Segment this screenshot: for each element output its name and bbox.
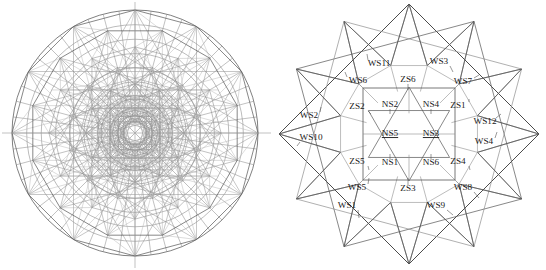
- star-ray-a-10: [296, 69, 340, 116]
- axis-group: [2, 2, 271, 268]
- shell-link-0-11: [74, 26, 108, 30]
- label-ws3: WS3: [430, 56, 449, 66]
- label-zs6: ZS6: [400, 74, 416, 84]
- shell-link-0-2: [237, 72, 241, 106]
- label-ns3: NS3: [423, 128, 440, 138]
- label-ws5-leader: [368, 178, 369, 184]
- label-ns2: NS2: [382, 99, 399, 109]
- shell-link-0-1: [197, 26, 210, 58]
- label-zs1: ZS1: [450, 100, 466, 110]
- shell-link-3-6: [117, 182, 135, 198]
- label-ws10-leader: [297, 142, 300, 146]
- label-ws3-leader: [450, 66, 453, 72]
- left-figure-panel: [0, 0, 273, 270]
- label-zs3: ZS3: [400, 183, 416, 193]
- label-ws12-leader: [496, 114, 501, 118]
- label-zs5-leader: [368, 166, 369, 170]
- label-zs4: ZS4: [450, 156, 466, 166]
- label-ns6: NS6: [423, 157, 440, 167]
- label-zs2: ZS2: [349, 101, 365, 111]
- label-ws6-leader: [345, 72, 347, 77]
- figure-pair: WS1WS2WS3WS4WS5WS6WS7WS8WS9WS10WS11WS12Z…: [0, 0, 546, 270]
- polar-mesh-disk: [0, 0, 273, 270]
- label-ws9-leader: [447, 210, 453, 215]
- label-zs5: ZS5: [349, 156, 365, 166]
- label-ws11: WS11: [368, 58, 391, 68]
- star-ray-a-4: [477, 152, 521, 199]
- label-ws5: WS5: [348, 182, 367, 192]
- twelve-point-star-diagram: WS1WS2WS3WS4WS5WS6WS7WS8WS9WS10WS11WS12Z…: [273, 0, 546, 270]
- labels-group: WS1WS2WS3WS4WS5WS6WS7WS8WS9WS10WS11WS12Z…: [300, 56, 497, 210]
- label-ns4: NS4: [423, 99, 440, 109]
- star-ray-b-8: [296, 152, 340, 199]
- label-ws1: WS1: [338, 200, 357, 210]
- shell-link-3-0: [135, 68, 153, 84]
- label-ws9: WS9: [427, 200, 446, 210]
- star-ray-b-2: [477, 69, 521, 116]
- shell-link-0-8: [28, 160, 32, 194]
- label-ws4-leader: [495, 132, 497, 138]
- label-ws10: WS10: [300, 132, 323, 142]
- label-ws2: WS2: [300, 110, 319, 120]
- label-ws6: WS6: [349, 75, 368, 85]
- shell-link-0-10: [28, 58, 60, 71]
- label-ws7: WS7: [454, 76, 473, 86]
- shell-link-0-5: [162, 235, 196, 239]
- shell-link-3-3: [184, 133, 200, 151]
- label-ws8: WS8: [454, 182, 473, 192]
- shell-link-0-4: [210, 195, 242, 208]
- label-ws7-leader: [474, 75, 479, 78]
- shell-link-3-9: [70, 115, 86, 133]
- right-figure-panel: WS1WS2WS3WS4WS5WS6WS7WS8WS9WS10WS11WS12Z…: [273, 0, 546, 270]
- label-ns5: NS5: [382, 128, 399, 138]
- label-ws4: WS4: [475, 136, 494, 146]
- label-zs2-leader: [368, 111, 371, 114]
- label-ns1: NS1: [382, 157, 399, 167]
- label-ws12: WS12: [474, 116, 497, 126]
- shell-link-0-7: [60, 208, 73, 240]
